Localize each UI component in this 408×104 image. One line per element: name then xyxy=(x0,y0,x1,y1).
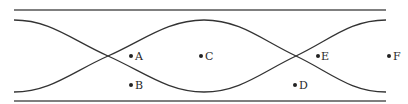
standing-wave-diagram: A B C D E F xyxy=(0,0,408,104)
point-c: C xyxy=(199,50,213,63)
point-f-label: F xyxy=(393,50,401,63)
point-d-label: D xyxy=(299,79,308,92)
point-f: F xyxy=(387,50,401,63)
point-b: B xyxy=(129,79,143,92)
point-c-label: C xyxy=(205,50,213,63)
point-d: D xyxy=(293,79,308,92)
point-e: E xyxy=(316,50,329,63)
point-b-label: B xyxy=(135,79,143,92)
point-a-label: A xyxy=(134,50,144,63)
point-e-label: E xyxy=(321,50,329,63)
point-a: A xyxy=(129,50,144,63)
